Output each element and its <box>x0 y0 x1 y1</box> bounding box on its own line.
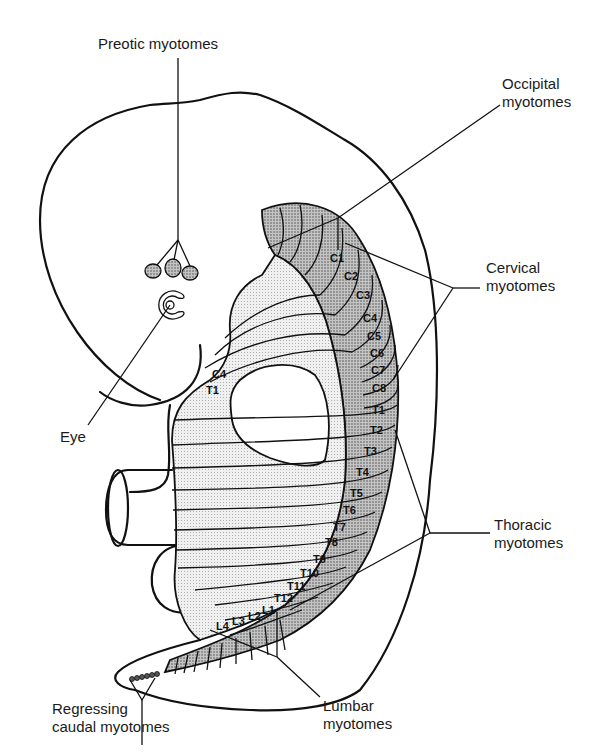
label-c6: C6 <box>370 347 384 359</box>
label-limb-t1: T1 <box>206 384 219 396</box>
lumbar-label-line1: Lumbar <box>323 697 374 714</box>
limb-bud <box>106 470 180 545</box>
occipital-label-line1: Occipital <box>502 75 560 92</box>
label-t8: T8 <box>325 536 338 548</box>
regressing-label-line2: caudal myotomes <box>52 718 170 735</box>
occipital-label-line2: myotomes <box>502 93 571 110</box>
label-c5: C5 <box>367 330 381 342</box>
label-c7: C7 <box>371 364 385 376</box>
label-t11: T11 <box>287 580 305 592</box>
preotic-myotomes-label: Preotic myotomes <box>98 35 218 52</box>
label-l4: L4 <box>216 620 230 632</box>
neck-outline <box>130 405 170 492</box>
label-t3: T3 <box>364 445 377 457</box>
regressing-label-line1: Regressing <box>52 700 128 717</box>
label-t12: T12 <box>274 592 293 604</box>
label-c8: C8 <box>372 382 386 394</box>
label-c3: C3 <box>356 289 370 301</box>
caudal-beads <box>130 672 160 682</box>
limb-bud-end <box>108 470 128 546</box>
cervical-label-line2: myotomes <box>486 277 555 294</box>
label-c1: C1 <box>330 252 344 264</box>
label-l3: L3 <box>232 615 245 627</box>
lumbar-label-line2: myotomes <box>323 715 392 732</box>
label-t7: T7 <box>333 521 346 533</box>
thoracic-label-line1: Thoracic <box>494 516 552 533</box>
label-t10: T10 <box>300 567 319 579</box>
preotic-myotomes <box>145 259 198 280</box>
label-c2: C2 <box>344 270 358 282</box>
label-t2: T2 <box>370 424 383 436</box>
label-t9: T9 <box>313 553 326 565</box>
label-t5: T5 <box>350 487 363 499</box>
eye-label: Eye <box>60 428 86 445</box>
label-c4: C4 <box>363 312 378 324</box>
label-t4: T4 <box>356 466 370 478</box>
label-l1: L1 <box>262 604 275 616</box>
label-t6: T6 <box>343 504 356 516</box>
label-t1: T1 <box>372 404 385 416</box>
cervical-label-line1: Cervical <box>486 259 540 276</box>
label-l2: L2 <box>248 610 261 622</box>
label-limb-c4: C4 <box>212 368 227 380</box>
myotome-diagram: C1 C2 C3 C4 C5 C6 C7 C8 T1 T2 T3 T4 T5 T… <box>0 0 615 753</box>
thoracic-label-line2: myotomes <box>494 534 563 551</box>
